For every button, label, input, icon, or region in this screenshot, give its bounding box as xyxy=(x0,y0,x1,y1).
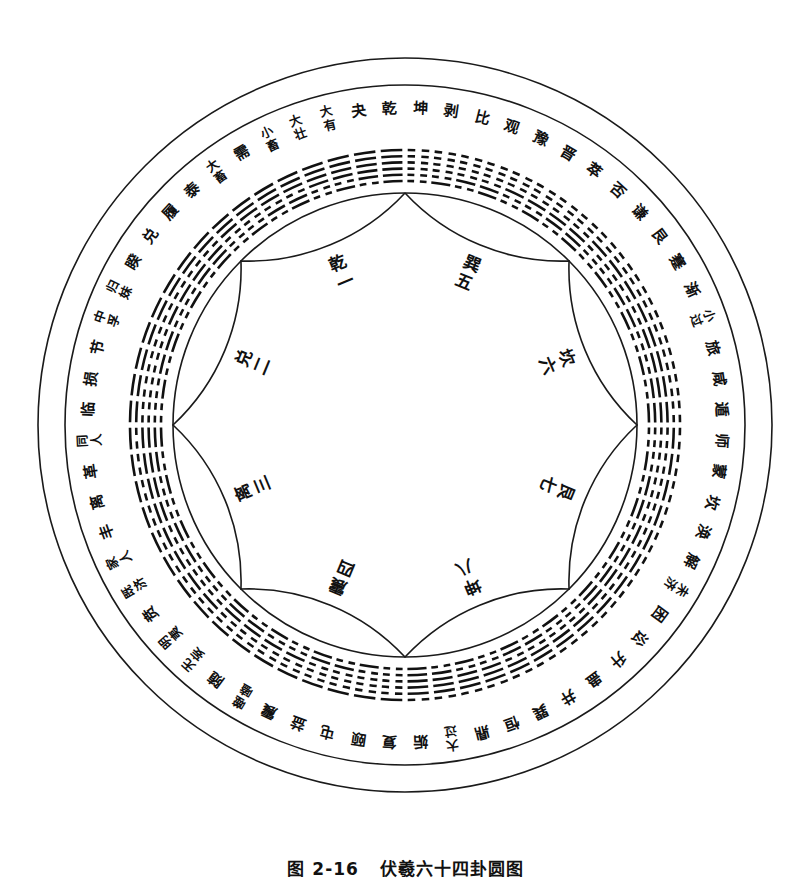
hexagram-16 xyxy=(129,401,164,423)
yin-line-left xyxy=(525,177,533,183)
yin-line-left xyxy=(446,164,454,168)
yin-line-right xyxy=(532,628,539,634)
yang-line xyxy=(433,676,453,682)
yin-line-right xyxy=(618,252,625,260)
yang-line xyxy=(431,181,450,186)
hexagram-name-56: 谦 xyxy=(628,201,651,224)
yin-line-right xyxy=(552,207,559,213)
yin-line-left xyxy=(496,178,504,183)
yin-line-left xyxy=(583,232,590,239)
yin-line-right xyxy=(659,322,664,330)
yin-line-right xyxy=(186,559,192,566)
yin-line-left xyxy=(672,415,675,422)
yin-line-right xyxy=(147,364,151,372)
yang-line xyxy=(141,349,149,370)
yin-line-left xyxy=(141,480,145,488)
yin-line-left xyxy=(659,520,664,528)
yin-line-right xyxy=(559,624,566,630)
yang-line xyxy=(407,673,427,677)
yin-line-left xyxy=(179,547,185,554)
yin-line-right xyxy=(165,368,169,375)
hexagram-11 xyxy=(163,274,202,309)
yang-line xyxy=(212,213,230,229)
yin-line-right xyxy=(311,189,318,194)
yang-line xyxy=(163,274,176,294)
yin-line-right xyxy=(162,488,166,495)
hexagram-name-25: 无妄 xyxy=(178,645,208,676)
yin-line-right xyxy=(455,185,462,189)
yang-line xyxy=(408,691,429,695)
yin-line-left xyxy=(480,660,487,665)
yin-line-left xyxy=(563,215,570,221)
yin-line-left xyxy=(471,170,479,174)
yin-line-right xyxy=(153,365,157,372)
yin-line-left xyxy=(473,164,481,168)
yin-line-left xyxy=(216,616,223,623)
yin-line-right xyxy=(485,167,493,172)
hexagram-name-52: 小过 xyxy=(687,306,719,329)
yin-line-left xyxy=(289,646,296,651)
yang-line xyxy=(327,688,349,696)
hexagram-name-50: 咸 xyxy=(709,370,729,387)
yin-line-left xyxy=(656,465,660,472)
hexagram-31 xyxy=(354,663,379,699)
yin-line-left xyxy=(254,212,261,218)
hexagram-63 xyxy=(431,150,456,186)
yin-line-left xyxy=(587,227,594,234)
yang-line xyxy=(662,480,670,501)
yin-line-right xyxy=(175,565,181,573)
yang-line xyxy=(653,403,657,423)
yang-line xyxy=(135,401,139,422)
yin-line-right xyxy=(631,550,637,558)
hexagram-name-10: 兑 xyxy=(139,225,162,248)
hexagram-name-20: 丰 xyxy=(96,522,118,542)
yin-line-left xyxy=(478,654,485,659)
yin-line-right xyxy=(617,572,623,579)
yin-line-left xyxy=(645,392,648,399)
yang-line xyxy=(153,477,160,497)
yang-line xyxy=(659,402,663,422)
yin-line-left xyxy=(242,237,249,243)
yin-line-left xyxy=(676,388,680,396)
yin-line-right xyxy=(654,532,659,540)
yin-line-right xyxy=(660,428,663,435)
yin-line-left xyxy=(157,378,161,385)
yin-line-left xyxy=(159,476,163,483)
yin-line-left xyxy=(420,174,427,177)
yin-line-right xyxy=(539,638,546,644)
trigram-label-震: 震四 xyxy=(325,555,358,599)
yin-line-left xyxy=(647,516,652,524)
yang-line xyxy=(407,667,426,671)
yin-line-right xyxy=(570,598,577,605)
yin-line-right xyxy=(573,223,580,230)
yin-line-left xyxy=(549,632,556,638)
hexagram-22 xyxy=(163,542,202,577)
figure-caption: 图 2-16 伏羲六十四卦圆图 xyxy=(0,855,811,880)
yin-line-right xyxy=(162,542,168,550)
yang-line xyxy=(193,232,209,250)
yang-line xyxy=(232,197,251,212)
yin-line-left xyxy=(331,676,339,680)
yin-line-right xyxy=(468,664,475,668)
yin-line-right xyxy=(517,651,524,656)
yang-line xyxy=(216,218,233,234)
yin-line-right xyxy=(348,661,355,665)
yang-line xyxy=(360,663,379,668)
yin-line-right xyxy=(608,291,614,298)
yin-line-left xyxy=(156,530,161,538)
yang-line xyxy=(155,452,160,472)
hexagram-name-46: 坎 xyxy=(702,493,723,512)
yin-line-right xyxy=(524,204,531,210)
hexagram-name-38: 井 xyxy=(557,685,579,708)
hexagram-35 xyxy=(455,658,483,696)
yin-line-left xyxy=(542,200,549,206)
yin-line-left xyxy=(150,351,154,359)
octofoil-path xyxy=(173,193,637,657)
yin-line-right xyxy=(634,274,640,282)
yin-line-right xyxy=(443,663,450,667)
yin-line-left xyxy=(447,158,455,162)
yin-line-right xyxy=(216,599,223,606)
yin-line-right xyxy=(272,651,280,657)
yin-line-right xyxy=(674,374,678,382)
yang-line xyxy=(357,169,377,175)
